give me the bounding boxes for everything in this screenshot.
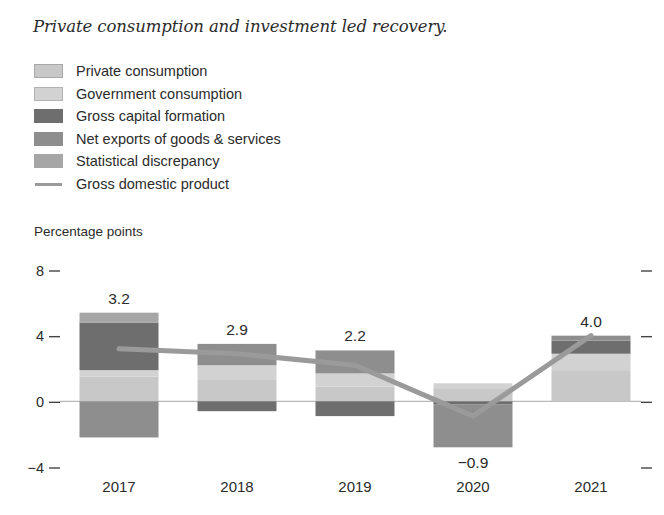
x-axis-tick-label: 2017 [102, 478, 135, 495]
bar-group [552, 336, 631, 402]
bar-segment [80, 370, 159, 377]
bar-segment [80, 313, 159, 323]
y-axis-tick-label: 0 [36, 394, 44, 410]
figure-root: Private consumption and investment led r… [0, 0, 664, 515]
y-axis-tick-label: 4 [36, 328, 44, 344]
x-axis-tick-label: 2021 [574, 478, 607, 495]
y-axis-tick-label: −4 [27, 460, 44, 476]
x-axis-tick-label: 2020 [456, 478, 489, 495]
bar-segment [434, 383, 513, 388]
data-value-label: 3.2 [108, 290, 130, 307]
data-value-label: 2.9 [226, 321, 248, 338]
bar-segment [80, 401, 159, 437]
bar-segment [80, 377, 159, 402]
data-value-label: 4.0 [580, 313, 602, 330]
bar-segment [434, 405, 513, 448]
data-value-label: −0.9 [458, 454, 489, 471]
bar-segment [552, 370, 631, 401]
y-axis-tick-label: 8 [36, 263, 44, 279]
bar-segment [198, 401, 277, 411]
x-axis-tick-label: 2019 [338, 478, 371, 495]
bar-group [80, 313, 159, 438]
x-axis-tick-label: 2018 [220, 478, 253, 495]
bar-segment [316, 387, 395, 402]
bar-segment [316, 401, 395, 416]
data-value-label: 2.2 [344, 327, 366, 344]
bar-segment [198, 380, 277, 401]
chart-plot-area: −40483.22.92.2−0.94.02017201820192020202… [0, 0, 664, 515]
bar-segment [198, 365, 277, 380]
